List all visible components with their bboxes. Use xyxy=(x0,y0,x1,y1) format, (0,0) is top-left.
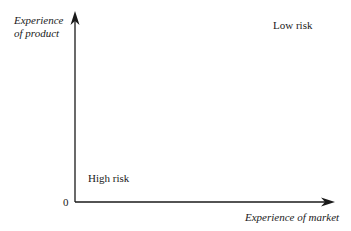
quadrant-label-high-risk: High risk xyxy=(88,172,129,185)
origin-label: 0 xyxy=(63,196,69,209)
y-axis-label: Experience of product xyxy=(14,14,63,40)
y-axis-label-line2: of product xyxy=(14,27,63,40)
x-axis-label: Experience of market xyxy=(245,211,339,224)
y-axis-label-line1: Experience xyxy=(14,14,63,27)
quadrant-label-low-risk: Low risk xyxy=(273,19,312,32)
